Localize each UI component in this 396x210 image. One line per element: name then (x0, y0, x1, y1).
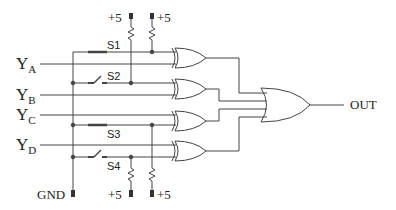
wire-xor1-or (206, 58, 267, 93)
ground-label: GND (37, 188, 65, 201)
switch-label-s2: S2 (107, 71, 120, 82)
xor-gate-2 (172, 79, 206, 99)
xor-gate-4 (172, 141, 206, 161)
xor-gate-3 (172, 111, 206, 131)
s4-switch-blade (94, 150, 101, 157)
switch-label-s3: S3 (107, 129, 120, 140)
ground-terminal (71, 190, 75, 197)
circuit-wiring (0, 0, 396, 210)
circuit-diagram: YA YB YC YD S1 S2 S3 S4 +5 +5 +5 +5 GND … (0, 0, 396, 210)
supply-label-top-left: +5 (108, 11, 122, 24)
supply-label-bottom-left: +5 (108, 188, 122, 201)
or-gate (261, 88, 310, 122)
switch-label-s1: S1 (107, 40, 120, 51)
s2-switch-blade (94, 76, 101, 83)
input-label-b: YB (16, 86, 36, 106)
output-label: OUT (350, 98, 377, 111)
supply-label-top-right: +5 (157, 11, 171, 24)
supply-terminal (129, 13, 133, 19)
supply-terminal (150, 13, 154, 19)
switch-label-s4: S4 (107, 161, 120, 172)
wire-xor2-or (206, 89, 267, 101)
xor-gate-1 (172, 48, 206, 68)
supply-terminal (150, 190, 154, 197)
supply-terminal (129, 190, 133, 197)
wire-xor3-or (206, 109, 267, 121)
input-label-d: YD (16, 136, 36, 156)
input-label-a: YA (16, 55, 36, 75)
input-label-c: YC (16, 106, 36, 126)
junction (71, 81, 75, 85)
wire-xor4-or (206, 117, 267, 151)
supply-label-bottom-right: +5 (157, 188, 171, 201)
